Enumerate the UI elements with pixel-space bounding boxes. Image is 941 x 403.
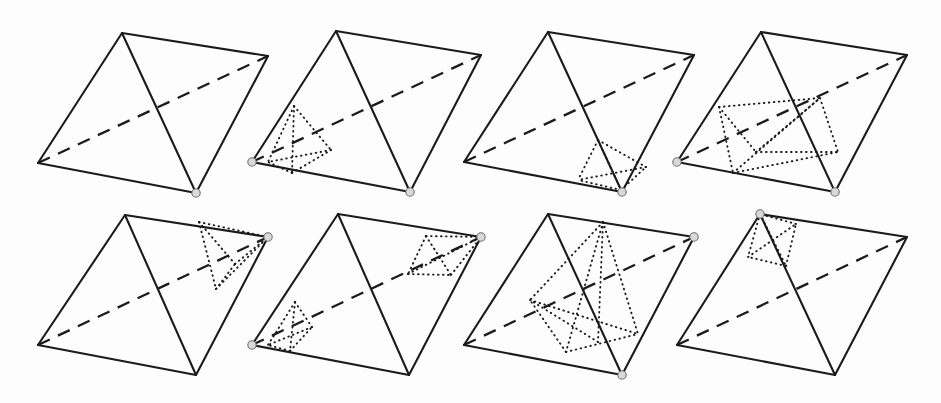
- dotted-edge-1: [199, 222, 216, 289]
- vertex-marker-0: [618, 371, 626, 379]
- solid-edge-4: [196, 56, 268, 193]
- dashed-hidden-edge-0: [38, 237, 268, 345]
- solid-edge-1: [122, 33, 196, 193]
- solid-edge-3: [677, 162, 835, 192]
- dotted-edge-8: [268, 302, 295, 345]
- solid-edge-3: [252, 345, 409, 375]
- vertex-marker-1: [831, 188, 839, 196]
- vertex-marker-1: [690, 233, 698, 241]
- dotted-edge-5: [530, 300, 638, 334]
- solid-edge-2: [761, 32, 907, 55]
- dotted-edge-7: [756, 98, 820, 152]
- dotted-edge-4: [408, 274, 451, 275]
- vertex-marker-0: [618, 188, 626, 196]
- solid-edge-3: [677, 345, 835, 375]
- dotted-edge-3: [786, 224, 796, 266]
- tetrahedron-panel-5: [38, 215, 272, 375]
- dotted-edge-3: [451, 237, 481, 275]
- solid-edge-2: [122, 33, 268, 56]
- solid-edge-2: [125, 215, 268, 237]
- solid-edge-3: [464, 345, 622, 375]
- solid-edge-4: [622, 55, 694, 192]
- vertex-marker-1: [406, 188, 414, 196]
- figure-root: [0, 0, 941, 403]
- dotted-edge-2: [719, 107, 756, 152]
- solid-edge-2: [338, 214, 481, 237]
- solid-edge-3: [38, 163, 196, 193]
- tetrahedron-panel-7: [464, 214, 698, 379]
- solid-edge-4: [196, 237, 268, 375]
- dotted-edge-5: [268, 150, 331, 162]
- vertex-marker-1: [477, 233, 485, 241]
- solid-edge-4: [835, 55, 907, 192]
- solid-edge-1: [336, 31, 410, 192]
- dotted-edge-1: [748, 214, 760, 257]
- solid-edge-1: [125, 215, 196, 375]
- solid-edge-1: [338, 214, 409, 375]
- dotted-edge-3: [530, 300, 566, 352]
- solid-edge-1: [548, 214, 622, 375]
- dotted-edge-5: [820, 98, 838, 152]
- solid-edge-3: [252, 162, 410, 192]
- dotted-edge-9: [290, 327, 312, 351]
- dotted-edge-4: [566, 334, 638, 352]
- tetrahedra-svg-canvas: [0, 0, 941, 403]
- solid-edge-4: [409, 237, 481, 375]
- tetrahedron-panel-3: [464, 32, 694, 196]
- solid-edge-1: [760, 214, 835, 375]
- solid-edge-4: [622, 237, 694, 375]
- dotted-edge-5: [408, 237, 481, 274]
- dotted-edge-3: [216, 237, 268, 289]
- vertex-marker-0: [248, 158, 256, 166]
- tetrahedron-panel-8: [677, 210, 907, 375]
- dotted-edge-1: [426, 236, 451, 275]
- dotted-edge-0: [292, 106, 294, 173]
- solid-edge-4: [835, 237, 907, 375]
- solid-edge-4: [410, 55, 481, 192]
- vertex-marker-0: [248, 341, 256, 349]
- dotted-edge-1: [294, 106, 331, 150]
- solid-edge-3: [464, 162, 622, 192]
- solid-edge-2: [548, 32, 694, 55]
- vertex-marker-0: [756, 210, 764, 218]
- dotted-edge-2: [578, 140, 598, 180]
- dotted-edge-7: [530, 300, 598, 342]
- tetrahedron-panel-2: [248, 31, 481, 196]
- vertex-marker-0: [192, 189, 200, 197]
- solid-edge-2: [548, 214, 694, 237]
- tetrahedron-panel-6: [248, 214, 485, 375]
- solid-edge-2: [336, 31, 481, 55]
- solid-edge-3: [38, 345, 196, 375]
- dotted-edge-4: [216, 264, 235, 289]
- tetrahedron-panel-4: [673, 32, 907, 196]
- dotted-edge-2: [268, 106, 294, 162]
- tetrahedron-panel-1: [38, 33, 268, 197]
- vertex-marker-0: [673, 158, 681, 166]
- vertex-marker-0: [264, 233, 272, 241]
